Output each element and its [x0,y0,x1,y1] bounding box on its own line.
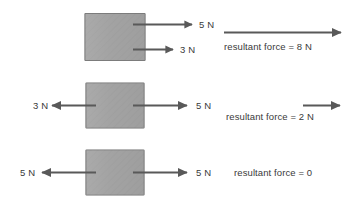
force-label-row-1-bottom: 3 N [180,44,195,55]
force-label-row-3-right: 5 N [196,167,211,178]
force-diagram: 5 N 3 N resultant force = 8 N 3 N 5 N re… [0,0,353,203]
resultant-label-row-1: resultant force = 8 N [224,41,312,52]
row-2: 3 N 5 N resultant force = 2 N [33,83,340,128]
force-label-row-1-top: 5 N [199,19,214,30]
resultant-label-row-3: resultant force = 0 [234,167,312,178]
force-diagram-canvas: 5 N 3 N resultant force = 8 N 3 N 5 N re… [0,0,353,203]
force-label-row-2-right: 5 N [196,100,211,111]
force-label-row-3-left: 5 N [20,167,35,178]
force-label-row-2-left: 3 N [33,100,48,111]
row-3: 5 N 5 N resultant force = 0 [20,150,312,195]
block-texture-row-1 [85,14,145,61]
row-1: 5 N 3 N resultant force = 8 N [85,14,341,61]
resultant-label-row-2: resultant force = 2 N [226,111,314,122]
